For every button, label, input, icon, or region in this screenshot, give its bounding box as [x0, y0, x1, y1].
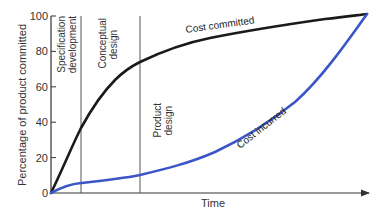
phase-label-concept-1: Conceptual [97, 18, 108, 69]
y-tick-20: 20 [36, 152, 48, 164]
x-axis-title: Time [201, 197, 225, 209]
y-tick-80: 80 [36, 45, 48, 57]
phase-label-spec-1: Specification [56, 16, 67, 73]
y-tick-100: 100 [30, 10, 48, 22]
phase-label-product-1: Product [152, 103, 163, 138]
phase-label-spec-2: development [67, 16, 78, 73]
phase-label-product-2: design [163, 106, 174, 135]
y-tick-40: 40 [36, 116, 48, 128]
y-axis-title: Percentage of product committed [16, 24, 28, 186]
y-tick-60: 60 [36, 81, 48, 93]
chart: 100 80 60 40 20 0 Percentage of product … [0, 0, 391, 216]
y-tick-0: 0 [42, 187, 48, 199]
cost-incurred-label: Cost incurred [234, 105, 288, 150]
phase-label-concept-2: design [108, 30, 119, 59]
